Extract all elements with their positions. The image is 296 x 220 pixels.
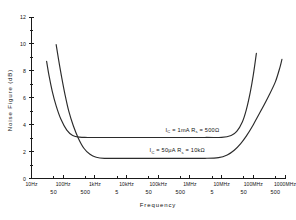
- x-tick-minor-label: 500: [175, 189, 185, 195]
- x-tick-minor-label: 50: [145, 189, 152, 195]
- x-tick-minor-label: 50: [240, 189, 247, 195]
- annotation-upper: IC = 1mA Rs = 500Ω: [166, 127, 220, 134]
- y-tick-label: 8: [23, 68, 26, 74]
- x-tick-major-label: 100MHz: [244, 181, 264, 187]
- y-axis-title: Noise Figure (dB): [7, 69, 13, 131]
- y-tick-label: 6: [23, 95, 26, 101]
- y-tick-label: 4: [23, 122, 26, 128]
- noise-figure-chart: 024681012 10Hz100Hz1kHz10kHz100kHz1MHz10…: [0, 0, 296, 220]
- axis-group: [32, 17, 286, 179]
- chart-canvas: 024681012 10Hz100Hz1kHz10kHz100kHz1MHz10…: [0, 0, 296, 220]
- x-tick-minor-label: 5: [210, 189, 213, 195]
- y-tick-label-group: 024681012: [20, 14, 26, 182]
- x-tick-major-label: 10MHz: [213, 181, 230, 187]
- x-tick-minor-label: 50: [50, 189, 57, 195]
- x-tick-major-label-group: 10Hz100Hz1kHz10kHz100kHz1MHz10MHz100MHz1…: [25, 181, 296, 187]
- x-axis-title: Frequency: [140, 202, 176, 208]
- x-tick-major-label: 100Hz: [56, 181, 71, 187]
- x-tick-major-label: 10Hz: [25, 181, 37, 187]
- curve-group: [47, 45, 282, 159]
- y-tick-label: 2: [23, 149, 26, 155]
- x-tick-minor-label: 5: [115, 189, 118, 195]
- annotation-group: IC = 1mA Rs = 500ΩIC = 50μA Rs = 10kΩ: [150, 127, 220, 154]
- x-tick-minor-label: 500: [271, 189, 281, 195]
- x-tick-major-label: 10kHz: [119, 181, 134, 187]
- y-tick-label: 12: [20, 14, 26, 20]
- x-tick-major-label: 1000MHz: [274, 181, 296, 187]
- x-tick-major-label: 1kHz: [89, 181, 101, 187]
- x-tick-minor-label: 500: [80, 189, 90, 195]
- annotation-lower: IC = 50μA Rs = 10kΩ: [150, 147, 205, 154]
- x-tick-major-label: 100kHz: [149, 181, 167, 187]
- x-tick-minor-label-group: 50500550500550500: [50, 189, 280, 195]
- data-curve-1: [47, 53, 257, 137]
- x-tick-major-label: 1MHz: [183, 181, 197, 187]
- y-tick-label: 10: [20, 41, 26, 47]
- x-tick-major-group: [32, 175, 286, 179]
